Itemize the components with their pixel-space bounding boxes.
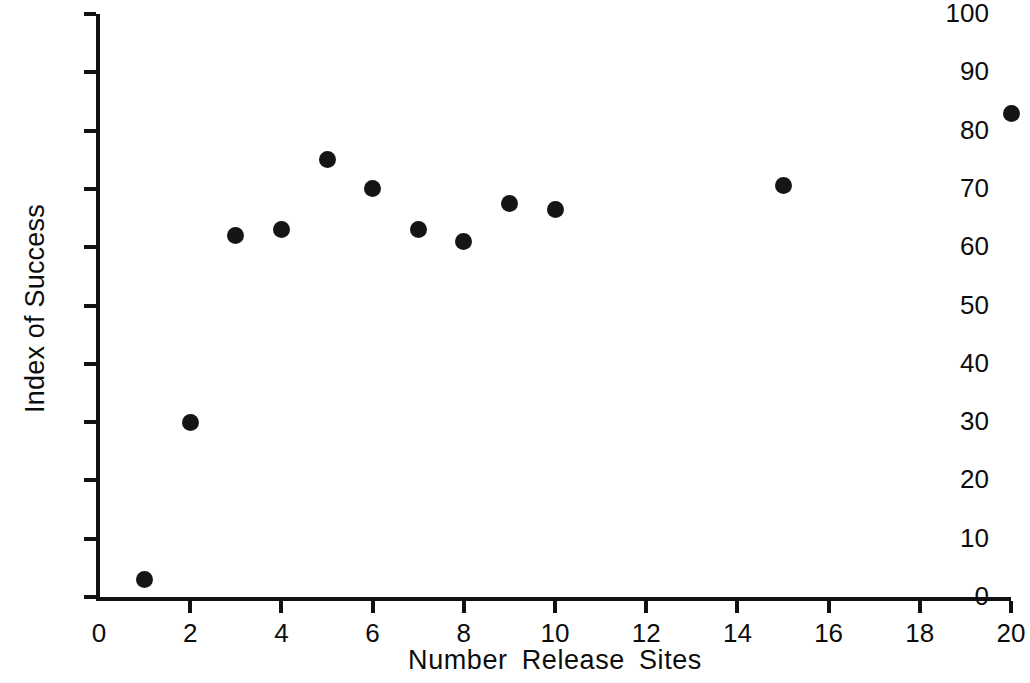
x-tick-label-16: 16 — [794, 620, 864, 646]
x-tick-2 — [188, 601, 192, 613]
x-tick-label-0: 0 — [64, 620, 134, 646]
y-tick-label-0: 0 — [919, 583, 989, 609]
y-tick-20 — [84, 478, 96, 482]
x-tick-label-6: 6 — [338, 620, 408, 646]
y-tick-100 — [84, 12, 96, 16]
x-tick-label-14: 14 — [702, 620, 772, 646]
plot-area: 0102030405060708090100 02468101214161820 — [99, 14, 1011, 597]
x-tick-label-2: 2 — [155, 620, 225, 646]
x-tick-16 — [827, 601, 831, 613]
x-tick-label-12: 12 — [611, 620, 681, 646]
x-tick-label-10: 10 — [520, 620, 590, 646]
y-axis-label: Index of Success — [20, 159, 51, 459]
x-axis-label-word-2: Release — [515, 645, 632, 676]
data-point — [455, 233, 472, 250]
x-axis-label-word-3: Sites — [632, 645, 709, 676]
y-tick-10 — [84, 537, 96, 541]
data-point — [1003, 105, 1020, 122]
data-point — [547, 201, 564, 218]
y-tick-label-20: 20 — [919, 466, 989, 492]
y-tick-label-50: 50 — [919, 292, 989, 318]
y-tick-50 — [84, 304, 96, 308]
data-point — [410, 221, 427, 238]
data-point — [136, 571, 153, 588]
y-tick-label-10: 10 — [919, 525, 989, 551]
y-tick-label-90: 90 — [919, 58, 989, 84]
y-tick-label-60: 60 — [919, 233, 989, 259]
y-tick-80 — [84, 129, 96, 133]
data-point — [273, 221, 290, 238]
y-tick-90 — [84, 70, 96, 74]
data-point — [227, 227, 244, 244]
x-tick-6 — [371, 601, 375, 613]
x-tick-label-4: 4 — [246, 620, 316, 646]
x-tick-14 — [735, 601, 739, 613]
x-tick-12 — [644, 601, 648, 613]
y-tick-60 — [84, 245, 96, 249]
y-tick-label-30: 30 — [919, 408, 989, 434]
y-tick-label-80: 80 — [919, 117, 989, 143]
x-tick-label-18: 18 — [885, 620, 955, 646]
data-point — [319, 151, 336, 168]
x-tick-10 — [553, 601, 557, 613]
x-tick-20 — [1009, 601, 1013, 613]
x-axis-label-word-1: Number — [401, 645, 515, 676]
data-point — [775, 177, 792, 194]
y-tick-70 — [84, 187, 96, 191]
y-tick-30 — [84, 420, 96, 424]
x-tick-label-20: 20 — [976, 620, 1030, 646]
y-tick-label-100: 100 — [919, 0, 989, 26]
y-tick-label-70: 70 — [919, 175, 989, 201]
x-tick-18 — [918, 601, 922, 613]
data-point — [182, 414, 199, 431]
y-tick-40 — [84, 362, 96, 366]
data-point — [501, 195, 518, 212]
x-tick-label-8: 8 — [429, 620, 499, 646]
y-tick-label-40: 40 — [919, 350, 989, 376]
x-tick-4 — [279, 601, 283, 613]
x-axis-label: NumberReleaseSites — [99, 645, 1011, 676]
x-tick-8 — [462, 601, 466, 613]
y-tick-0 — [84, 595, 96, 599]
y-axis-spine — [96, 14, 100, 598]
data-point — [364, 180, 381, 197]
